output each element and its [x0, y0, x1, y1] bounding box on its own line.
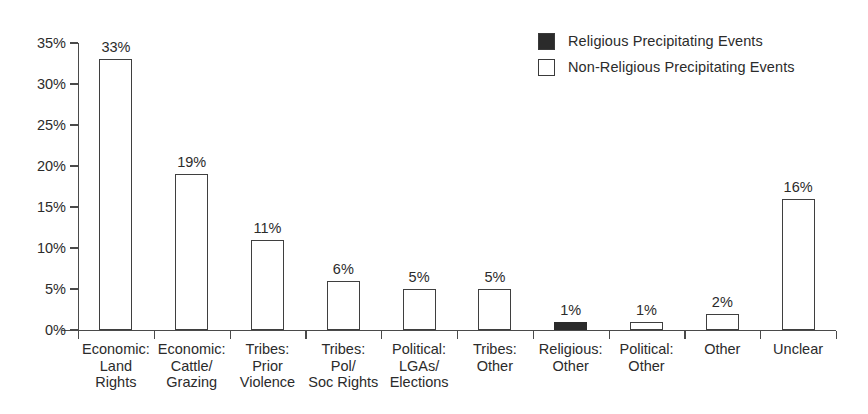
x-axis-tick	[836, 331, 837, 339]
x-axis-tick	[381, 331, 382, 339]
bar	[327, 281, 360, 330]
y-axis-tick	[70, 329, 78, 330]
bar	[251, 240, 284, 330]
y-axis-tick	[70, 124, 78, 125]
y-axis-line	[78, 43, 79, 331]
x-axis-tick	[305, 331, 306, 339]
bar-value-label: 19%	[162, 154, 222, 170]
bar-chart: Religious Precipitating Events Non-Relig…	[0, 0, 868, 414]
y-axis-tick	[70, 288, 78, 289]
x-axis-line	[62, 330, 836, 331]
y-axis-tick-label: 35%	[20, 35, 66, 51]
y-axis-tick	[70, 247, 78, 248]
y-axis-tick-label: 15%	[20, 199, 66, 215]
y-axis-tick-label: 30%	[20, 76, 66, 92]
y-axis-tick-label: 5%	[20, 281, 66, 297]
y-axis-tick	[70, 165, 78, 166]
bar	[175, 174, 208, 330]
y-axis-tick-label: 20%	[20, 158, 66, 174]
bar	[403, 289, 436, 330]
legend-swatch-religious-icon	[538, 33, 555, 50]
x-axis-tick	[609, 331, 610, 339]
legend-label-religious: Religious Precipitating Events	[568, 33, 763, 49]
x-axis-tick	[684, 331, 685, 339]
bar-value-label: 1%	[617, 302, 677, 318]
bar	[554, 322, 587, 330]
y-axis-tick-label: 25%	[20, 117, 66, 133]
chart-legend: Religious Precipitating Events Non-Relig…	[538, 28, 858, 80]
legend-swatch-non-religious-icon	[538, 59, 555, 76]
bar-value-label: 5%	[389, 269, 449, 285]
bar	[782, 199, 815, 330]
bar-value-label: 1%	[541, 302, 601, 318]
x-axis-tick	[78, 331, 79, 339]
bar-value-label: 16%	[768, 179, 828, 195]
bar-value-label: 11%	[238, 220, 298, 236]
x-axis-tick	[533, 331, 534, 339]
x-axis-tick	[457, 331, 458, 339]
bar	[478, 289, 511, 330]
x-axis-category-label: Unclear	[753, 341, 843, 358]
bar-value-label: 33%	[86, 39, 146, 55]
bar-value-label: 5%	[465, 269, 525, 285]
bar	[99, 59, 132, 330]
bar-value-label: 2%	[692, 294, 752, 310]
y-axis-tick	[70, 83, 78, 84]
bar	[706, 314, 739, 330]
x-axis-tick	[230, 331, 231, 339]
y-axis-tick	[70, 206, 78, 207]
x-axis-tick	[760, 331, 761, 339]
legend-label-non-religious: Non-Religious Precipitating Events	[568, 59, 795, 75]
y-axis-tick-label: 10%	[20, 240, 66, 256]
legend-item-religious: Religious Precipitating Events	[538, 28, 858, 54]
y-axis-tick	[70, 42, 78, 43]
legend-item-non-religious: Non-Religious Precipitating Events	[538, 54, 858, 80]
bar-value-label: 6%	[313, 261, 373, 277]
bar	[630, 322, 663, 330]
x-axis-tick	[154, 331, 155, 339]
y-axis-tick-label: 0%	[20, 322, 66, 338]
